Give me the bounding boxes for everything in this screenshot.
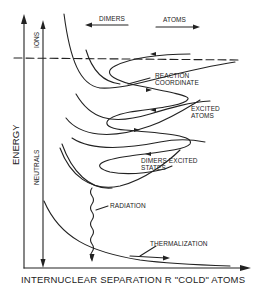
rc-arrow-5 — [145, 152, 151, 156]
energy-axis-arrowhead — [21, 14, 27, 24]
separation-axis-arrowhead — [240, 265, 251, 271]
energy-diagram: DIMERS ATOMS IONS NEUTRALS ENERGY REACTI… — [0, 0, 254, 292]
thermalization-label: THERMALIZATION — [150, 240, 208, 247]
dimers-excited-curve-1 — [72, 138, 205, 148]
thermalization-arrowhead — [163, 256, 170, 261]
reaction-coordinate-label-1: REACTION — [155, 72, 189, 79]
excited-atoms-label-1: EXCITED — [191, 105, 220, 112]
atoms-label: ATOMS — [163, 16, 186, 23]
rc-arrow-1 — [150, 52, 156, 56]
ionization-level-dashed — [14, 58, 240, 60]
dimers-excited-states-label-2: STATES — [141, 164, 166, 171]
radiation-label: RADIATION — [110, 202, 146, 209]
energy-axis-label: ENERGY — [12, 124, 19, 165]
neutrals-label: NEUTRALS — [33, 150, 40, 185]
radiation-leader — [96, 206, 108, 210]
separation-axis-label: INTERNUCLEAR SEPARATION R "COLD" ATOMS — [21, 276, 245, 283]
radiation-arrowhead — [90, 254, 95, 262]
reaction-coordinate-label-2: COORDINATE — [155, 79, 199, 86]
neutrals-arrowhead — [41, 259, 46, 268]
dimers-label: DIMERS — [99, 15, 125, 22]
atoms-direction-arrowhead — [193, 25, 200, 30]
excited-atoms-label-2: ATOMS — [191, 112, 214, 119]
thermalization-arrow-line — [130, 256, 166, 258]
dimers-direction-arrowhead — [85, 23, 92, 28]
thermalization-leader — [140, 246, 156, 256]
ions-arrowhead — [41, 20, 46, 29]
radiation-wavy-line — [91, 188, 94, 260]
dimers-excited-states-label-1: DIMERS EXCITED — [141, 157, 198, 164]
ions-label: IONS — [33, 32, 40, 48]
